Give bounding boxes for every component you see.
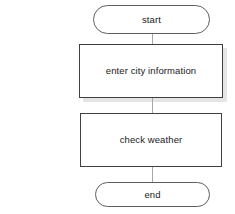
flowchart-diagram: start enter city information check weath… xyxy=(0,0,235,214)
flowchart-node-check-weather-label: check weather xyxy=(120,135,183,145)
flowchart-node-end[interactable]: end xyxy=(95,182,210,207)
connector-enter-city-to-check-weather xyxy=(152,98,153,114)
connector-check-weather-to-end xyxy=(152,167,153,183)
flowchart-node-enter-city-information-label: enter city information xyxy=(106,66,196,76)
flowchart-node-end-label: end xyxy=(144,190,160,200)
flowchart-node-check-weather[interactable]: check weather xyxy=(80,113,222,167)
flowchart-node-start-label: start xyxy=(142,15,161,25)
flowchart-node-enter-city-information[interactable]: enter city information xyxy=(79,44,223,98)
flowchart-node-start[interactable]: start xyxy=(93,5,210,34)
